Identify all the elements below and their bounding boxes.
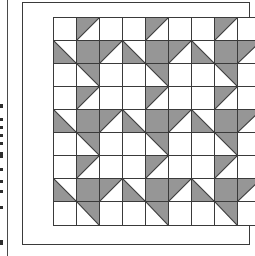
quilt-cell-r9-c7 bbox=[192, 202, 215, 225]
edge-mark bbox=[0, 152, 3, 158]
quilt-cell-r1-c7 bbox=[192, 18, 215, 41]
quilt-cell-r9-c2 bbox=[77, 202, 100, 225]
quilt-cell-r8-c9 bbox=[238, 179, 255, 202]
patch-tl bbox=[100, 41, 122, 63]
quilt-cell-r2-c8 bbox=[215, 41, 238, 64]
quilt-cell-r4-c3 bbox=[100, 87, 123, 110]
patch-tl bbox=[215, 156, 237, 178]
quilt-cell-r3-c5 bbox=[146, 64, 169, 87]
quilt-cell-r1-c9 bbox=[238, 18, 255, 41]
patch-full bbox=[215, 41, 237, 63]
quilt-cell-r9-c3 bbox=[100, 202, 123, 225]
quilt-cell-r6-c2 bbox=[77, 133, 100, 156]
page-margin-rule bbox=[7, 0, 8, 256]
patch-tl bbox=[169, 179, 191, 201]
patch-full bbox=[146, 41, 168, 63]
quilt-cell-r6-c4 bbox=[123, 133, 146, 156]
patch-tl bbox=[77, 87, 99, 109]
quilt-cell-r8-c1 bbox=[54, 179, 77, 202]
patch-tl bbox=[215, 87, 237, 109]
quilt-cell-r6-c1 bbox=[54, 133, 77, 156]
patch-bl bbox=[123, 41, 145, 63]
quilt-cell-r3-c1 bbox=[54, 64, 77, 87]
edge-mark bbox=[0, 118, 3, 121]
patch-bl bbox=[123, 110, 145, 132]
quilt-cell-r1-c3 bbox=[100, 18, 123, 41]
quilt-cell-r3-c8 bbox=[215, 64, 238, 87]
patch-tr bbox=[215, 64, 237, 86]
quilt-cell-r8-c6 bbox=[169, 179, 192, 202]
patch-bl bbox=[54, 41, 76, 63]
patch-tr bbox=[215, 202, 237, 225]
edge-mark bbox=[0, 142, 3, 145]
edge-mark bbox=[0, 104, 3, 108]
patch-bl bbox=[54, 110, 76, 132]
quilt-cell-r4-c2 bbox=[77, 87, 100, 110]
quilt-cell-r5-c9 bbox=[238, 110, 255, 133]
patch-bl bbox=[54, 179, 76, 201]
patch-full bbox=[146, 179, 168, 201]
patch-tl bbox=[238, 179, 255, 201]
quilt-cell-r8-c3 bbox=[100, 179, 123, 202]
patch-tr bbox=[146, 64, 168, 86]
quilt-cell-r3-c9 bbox=[238, 64, 255, 87]
quilt-cell-r1-c2 bbox=[77, 18, 100, 41]
quilt-cell-r4-c9 bbox=[238, 87, 255, 110]
quilt-cell-r4-c8 bbox=[215, 87, 238, 110]
edge-mark bbox=[0, 190, 3, 193]
quilt-cell-r4-c5 bbox=[146, 87, 169, 110]
quilt-cell-r7-c1 bbox=[54, 156, 77, 179]
quilt-cell-r7-c2 bbox=[77, 156, 100, 179]
quilt-grid bbox=[53, 17, 255, 226]
patch-tr bbox=[146, 133, 168, 155]
quilt-cell-r9-c5 bbox=[146, 202, 169, 225]
patch-full bbox=[77, 179, 99, 201]
quilt-cell-r3-c2 bbox=[77, 64, 100, 87]
patch-tr bbox=[77, 202, 99, 225]
patch-tl bbox=[215, 18, 237, 40]
patch-tl bbox=[238, 41, 255, 63]
patch-full bbox=[215, 179, 237, 201]
quilt-cell-r7-c4 bbox=[123, 156, 146, 179]
quilt-cell-r2-c3 bbox=[100, 41, 123, 64]
patch-tr bbox=[215, 133, 237, 155]
quilt-cell-r6-c3 bbox=[100, 133, 123, 156]
quilt-cell-r3-c3 bbox=[100, 64, 123, 87]
quilt-cell-r2-c5 bbox=[146, 41, 169, 64]
patch-tr bbox=[146, 202, 168, 225]
quilt-cell-r8-c8 bbox=[215, 179, 238, 202]
patch-bl bbox=[192, 110, 214, 132]
quilt-cell-r3-c4 bbox=[123, 64, 146, 87]
quilt-cell-r3-c7 bbox=[192, 64, 215, 87]
quilt-cell-r5-c7 bbox=[192, 110, 215, 133]
edge-mark bbox=[0, 180, 3, 183]
diagram-outer-frame bbox=[22, 2, 250, 245]
quilt-cell-r6-c5 bbox=[146, 133, 169, 156]
quilt-cell-r3-c6 bbox=[169, 64, 192, 87]
quilt-cell-r2-c9 bbox=[238, 41, 255, 64]
patch-tl bbox=[100, 179, 122, 201]
patch-bl bbox=[192, 41, 214, 63]
quilt-cell-r5-c3 bbox=[100, 110, 123, 133]
patch-tl bbox=[146, 18, 168, 40]
quilt-cell-r9-c8 bbox=[215, 202, 238, 225]
quilt-cell-r5-c8 bbox=[215, 110, 238, 133]
quilt-cell-r5-c2 bbox=[77, 110, 100, 133]
quilt-cell-r9-c6 bbox=[169, 202, 192, 225]
quilt-cell-r5-c6 bbox=[169, 110, 192, 133]
quilt-cell-r1-c8 bbox=[215, 18, 238, 41]
patch-tl bbox=[169, 41, 191, 63]
quilt-cell-r1-c5 bbox=[146, 18, 169, 41]
patch-full bbox=[146, 110, 168, 132]
quilt-cell-r7-c8 bbox=[215, 156, 238, 179]
quilt-cell-r1-c1 bbox=[54, 18, 77, 41]
patch-bl bbox=[192, 179, 214, 201]
patch-tl bbox=[169, 110, 191, 132]
quilt-cell-r7-c3 bbox=[100, 156, 123, 179]
quilt-cell-r5-c5 bbox=[146, 110, 169, 133]
quilt-cell-r9-c9 bbox=[238, 202, 255, 225]
quilt-cell-r2-c1 bbox=[54, 41, 77, 64]
quilt-cell-r5-c4 bbox=[123, 110, 146, 133]
edge-mark bbox=[0, 206, 3, 209]
quilt-cell-r5-c1 bbox=[54, 110, 77, 133]
